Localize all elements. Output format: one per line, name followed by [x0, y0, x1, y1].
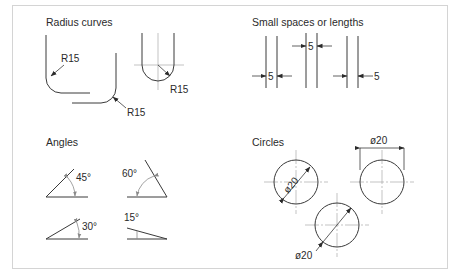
- angle-arc-45: [68, 178, 75, 196]
- section-small-spaces: Small spaces or lengths 5 5 5: [252, 16, 380, 88]
- circle-2: ø20: [350, 135, 414, 214]
- radius-label-1: R15: [61, 53, 80, 64]
- section-radius-curves: Radius curves R15 R15 R15: [46, 16, 189, 118]
- section-angles: Angles 45° 60° 30° 15°: [46, 136, 167, 239]
- circle-1: ø20: [264, 150, 328, 214]
- angle-label-60: 60°: [122, 168, 137, 179]
- circle-label-1: ø20: [281, 175, 301, 196]
- angle-label-45: 45°: [76, 172, 91, 183]
- circle-label-3: ø20: [295, 250, 313, 261]
- leader-line: [316, 242, 323, 251]
- section-title-angles: Angles: [46, 136, 78, 148]
- angle-label-30: 30°: [82, 221, 97, 232]
- section-title-radius-curves: Radius curves: [46, 16, 113, 28]
- section-title-small-spaces: Small spaces or lengths: [252, 16, 363, 28]
- angle-arc-30: [77, 223, 79, 238]
- section-title-circles: Circles: [252, 136, 284, 148]
- section-circles: Circles ø20 ø20 ø20: [252, 135, 414, 261]
- angle-label-15: 15°: [124, 212, 139, 223]
- angle-arc-60: [137, 176, 154, 196]
- space-label-3: 5: [374, 71, 380, 82]
- angle-arm: [46, 219, 80, 239]
- circle-label-2: ø20: [370, 135, 388, 146]
- radius-leader-3: [158, 65, 170, 76]
- angle-arm: [127, 228, 167, 239]
- space-label-2: 5: [308, 41, 314, 52]
- radius-label-3: R15: [170, 84, 189, 95]
- circle-3: ø20: [295, 193, 369, 261]
- angle-arm: [46, 169, 74, 197]
- space-label-1: 5: [268, 71, 274, 82]
- radius-leader-1: [51, 65, 64, 76]
- radius-curve-1: [46, 35, 90, 93]
- radius-label-2: R15: [127, 107, 146, 118]
- radius-leader-2: [113, 97, 126, 108]
- dimensioning-diagram: Radius curves R15 R15 R15 Small spaces o…: [0, 0, 462, 275]
